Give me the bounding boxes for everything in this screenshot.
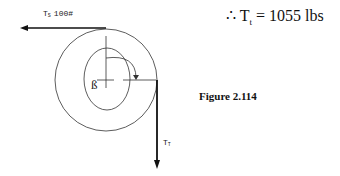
- center-label: ß: [91, 77, 98, 92]
- result-subscript: t: [250, 17, 253, 27]
- figure-caption: Figure 2.114: [199, 90, 257, 102]
- result-symbol: T: [240, 7, 250, 24]
- result-equation: ∴ Tt = 1055 lbs: [226, 6, 324, 27]
- rotation-arc: [106, 57, 136, 78]
- result-value: = 1055 lbs: [256, 7, 324, 24]
- rotation-arrowhead-icon: [133, 75, 139, 80]
- slack-tension-label: TS100#: [43, 9, 73, 19]
- arrowhead-left-icon: [20, 25, 28, 31]
- therefore-symbol: ∴: [226, 7, 236, 24]
- arrowhead-down-icon: [154, 160, 160, 169]
- tight-tension-label: TT: [163, 138, 171, 148]
